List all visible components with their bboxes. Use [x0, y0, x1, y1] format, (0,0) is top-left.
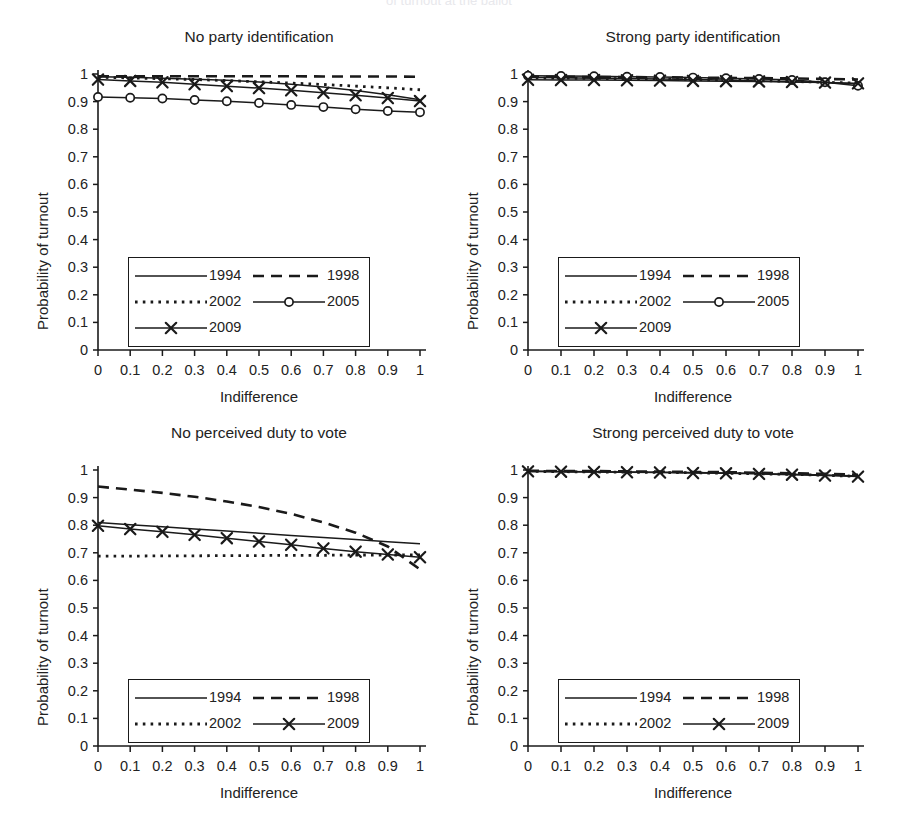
- legend-label-1994: 1994: [639, 689, 671, 705]
- legend-label-1998: 1998: [757, 689, 789, 705]
- chart-panel-strong-perceived-duty-to-vote: Strong perceived duty to voteProbability…: [0, 0, 898, 838]
- legend-label-2002: 2002: [639, 715, 671, 731]
- legend-strong-perceived-duty-to-vote[interactable]: 1994199820022009: [558, 679, 800, 743]
- legend-label-2009: 2009: [757, 715, 789, 731]
- figure-four-panel-turnout: of turnout at the ballot No party identi…: [0, 0, 898, 838]
